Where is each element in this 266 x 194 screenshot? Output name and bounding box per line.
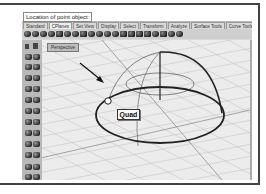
trim-icon[interactable] [25, 141, 32, 147]
viewport-title[interactable]: Perspective [47, 43, 79, 52]
tool-icon[interactable] [33, 164, 40, 170]
split-icon[interactable] [33, 141, 40, 147]
fillet-icon[interactable] [33, 119, 40, 125]
tab-select[interactable]: Select [120, 22, 139, 29]
zoom-icon[interactable] [112, 31, 119, 38]
curve-icon[interactable] [33, 54, 40, 60]
extrude-icon[interactable] [33, 97, 40, 103]
zoom-extents-icon[interactable] [120, 31, 127, 38]
tool-icon[interactable] [25, 174, 32, 180]
options-icon[interactable] [176, 31, 183, 38]
tab-standard[interactable]: Standard [23, 22, 48, 29]
paste-icon[interactable] [72, 31, 79, 38]
viewport-canvas [42, 40, 250, 180]
tool-icon[interactable] [33, 174, 40, 180]
undo-icon[interactable] [80, 31, 87, 38]
tab-curve-tools[interactable]: Curve Tools [226, 22, 252, 29]
point-icon[interactable] [33, 43, 38, 49]
open-icon[interactable] [32, 31, 39, 38]
box-icon[interactable] [25, 75, 32, 81]
toolbar-tabs: Standard CPlanes Set View Display Select… [22, 22, 252, 29]
print-icon[interactable] [48, 31, 55, 38]
tab-cplanes[interactable]: CPlanes [49, 22, 72, 29]
properties-icon[interactable] [160, 31, 167, 38]
tab-analyze[interactable]: Analyze [168, 22, 190, 29]
torus-icon[interactable] [25, 97, 32, 103]
tab-set-view[interactable]: Set View [73, 22, 97, 29]
join-icon[interactable] [25, 130, 32, 136]
new-icon[interactable] [24, 31, 31, 38]
sphere-icon[interactable] [33, 75, 40, 81]
tab-transform[interactable]: Transform [140, 22, 167, 29]
boolean-icon[interactable] [25, 119, 32, 125]
left-toolbar [22, 40, 42, 180]
layer-icon[interactable] [152, 31, 159, 38]
polyline-icon[interactable] [25, 54, 32, 60]
arc-icon[interactable] [33, 64, 40, 70]
save-icon[interactable] [40, 31, 47, 38]
tab-display[interactable]: Display [98, 22, 119, 29]
main-toolbar [22, 29, 252, 39]
redo-icon[interactable] [88, 31, 95, 38]
move-icon[interactable] [25, 152, 32, 158]
render-icon[interactable] [168, 31, 175, 38]
pan-icon[interactable] [96, 31, 103, 38]
command-prompt: Location of point object: [23, 12, 92, 22]
set-cplane-icon[interactable] [144, 31, 151, 38]
loft-icon[interactable] [25, 108, 32, 114]
explode-icon[interactable] [33, 130, 40, 136]
select-icon[interactable] [25, 44, 29, 49]
rhino-window: Location of point object: Standard CPlan… [22, 12, 252, 180]
revolve-icon[interactable] [33, 108, 40, 114]
osnap-tooltip: Quad [117, 109, 140, 120]
cut-icon[interactable] [56, 31, 63, 38]
perspective-viewport[interactable]: Perspective [42, 40, 250, 180]
copy-icon[interactable] [64, 31, 71, 38]
zoom-selected-icon[interactable] [136, 31, 143, 38]
cylinder-icon[interactable] [25, 86, 32, 92]
viewport-border [250, 40, 252, 180]
rotate-view-icon[interactable] [104, 31, 111, 38]
cone-icon[interactable] [33, 86, 40, 92]
command-line[interactable]: Location of point object: [22, 12, 252, 22]
zoom-window-icon[interactable] [128, 31, 135, 38]
tab-surface-tools[interactable]: Surface Tools [191, 22, 225, 29]
copy-icon[interactable] [33, 152, 40, 158]
circle-icon[interactable] [25, 64, 32, 70]
tool-icon[interactable] [25, 164, 32, 170]
